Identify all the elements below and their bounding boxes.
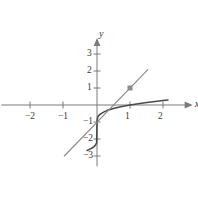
y-tick-label-2: 2 [87, 66, 92, 76]
series-secant-line [64, 70, 147, 156]
x-tick-label--1: −1 [58, 112, 68, 122]
x-tick-label--2: −2 [25, 112, 35, 122]
axes-group [1, 38, 192, 166]
y-tick-label-1: 1 [87, 83, 92, 93]
y-tick-label--2: −2 [83, 134, 93, 144]
x-axis-label: x [195, 99, 198, 109]
marked-point-marker [128, 86, 133, 91]
y-tick-label--3: −3 [83, 151, 93, 161]
graph-figure: x y −2−112 321−1−2−3 [0, 0, 198, 198]
y-axis-label: y [99, 29, 103, 39]
y-tick-label-3: 3 [87, 49, 92, 59]
series-curve [87, 100, 168, 150]
y-axis-arrow-icon [94, 38, 101, 46]
x-axis-arrow-icon [185, 102, 193, 109]
data-series-group [64, 70, 168, 156]
data-points-group [128, 86, 133, 91]
x-tick-label-1: 1 [125, 112, 130, 122]
x-tick-label-2: 2 [158, 112, 163, 122]
y-tick-label--1: −1 [83, 117, 93, 127]
